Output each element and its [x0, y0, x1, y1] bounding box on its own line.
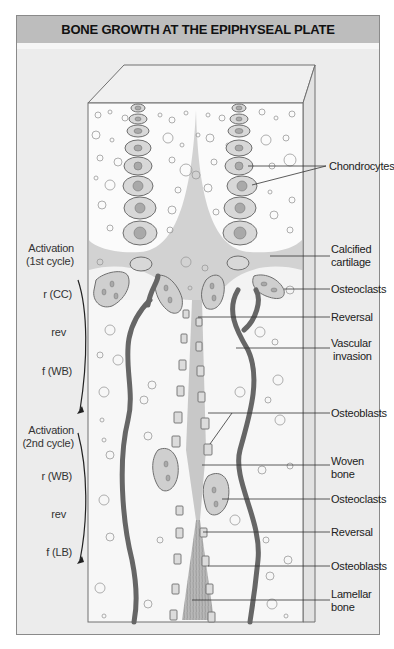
label-reversal-1: Reversal — [331, 311, 373, 324]
label-line: Lamellar — [331, 588, 372, 601]
cycle-text: (1st cycle) — [26, 255, 74, 268]
label-chondrocytes: Chondrocytes — [329, 160, 394, 173]
reversal-1-label: rev — [51, 326, 66, 339]
label-osteoblasts-2: Osteoblasts — [331, 560, 387, 573]
reversal-2-label: rev — [51, 508, 66, 521]
label-line: invasion — [331, 350, 372, 363]
activation-text: Activation — [22, 424, 74, 437]
formation-wb-label: f (WB) — [42, 365, 72, 378]
formation-lb-label: f (LB) — [46, 546, 72, 559]
label-line: Osteoblasts — [331, 560, 387, 573]
cycle-text: (2nd cycle) — [22, 437, 74, 450]
label-woven-bone: Woven bone — [331, 455, 364, 481]
label-osteoclasts-2: Osteoclasts — [331, 493, 386, 506]
label-line: Osteoclasts — [331, 493, 386, 506]
resorption-cc-label: r (CC) — [43, 288, 72, 301]
label-line: cartilage — [331, 256, 371, 269]
label-reversal-2: Reversal — [331, 526, 373, 539]
label-line: Reversal — [331, 311, 373, 324]
label-line: Osteoblasts — [331, 407, 387, 420]
activation-1st-label: Activation (1st cycle) — [26, 242, 74, 268]
label-osteoblasts-1: Osteoblasts — [331, 407, 387, 420]
resorption-wb-label: r (WB) — [41, 470, 72, 483]
label-line: bone — [331, 601, 372, 614]
label-line: Calcified — [331, 243, 371, 256]
label-line: Reversal — [331, 526, 373, 539]
label-line: Chondrocytes — [329, 160, 394, 173]
label-osteoclasts-1: Osteoclasts — [331, 283, 386, 296]
activation-2nd-label: Activation (2nd cycle) — [22, 424, 74, 450]
label-line: bone — [331, 468, 364, 481]
label-lamellar-bone: Lamellar bone — [331, 588, 372, 614]
cycle-arrows — [78, 280, 86, 560]
activation-text: Activation — [26, 242, 74, 255]
label-line: Woven — [331, 455, 364, 468]
label-calcified-cartilage: Calcified cartilage — [331, 243, 371, 269]
label-line: Osteoclasts — [331, 283, 386, 296]
label-vascular-invasion: Vascular invasion — [331, 337, 372, 363]
label-line: Vascular — [331, 337, 372, 350]
